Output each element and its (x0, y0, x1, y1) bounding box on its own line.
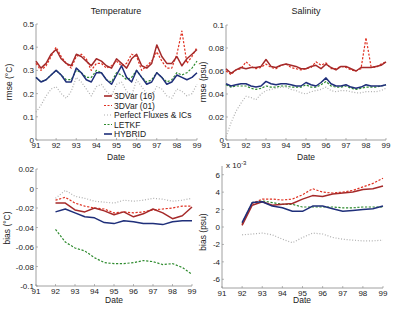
figure: Temperature 91929394959697989900.10.20.3… (0, 0, 401, 310)
x-axis-label: Date (297, 152, 315, 162)
x-tick-label: 94 (282, 141, 291, 150)
x-tick-label: 94 (92, 141, 101, 150)
legend: 3DVar (16) 3DVar (01) Perfect Fluxes & I… (104, 91, 191, 139)
x-tick-label: 98 (358, 289, 367, 298)
x-tick-label: 96 (129, 287, 138, 296)
y-scale-label: x 10-3 (226, 160, 247, 170)
y-tick-label: -0.02 (16, 204, 35, 213)
y-tick-label: 0.06 (208, 67, 224, 76)
series-line (36, 66, 197, 85)
panel-title: Temperature (91, 6, 142, 16)
panel-title: Salinity (291, 6, 321, 16)
y-tick-label: 0.2 (23, 90, 35, 99)
x-tick-label: 98 (362, 141, 371, 150)
svg-text:Perfect Fluxes & ICs: Perfect Fluxes & ICs (114, 110, 191, 120)
series-line (56, 190, 193, 203)
y-tick-label: 0.3 (23, 66, 35, 75)
series-line (242, 233, 383, 243)
y-tick-label: 0 (220, 136, 225, 145)
x-axis-label: Date (107, 152, 125, 162)
y-tick-label: 4 (216, 188, 221, 197)
panel-temperature-rmse: Temperature 91929394959697989900.10.20.3… (4, 6, 202, 162)
series-line (226, 87, 386, 137)
svg-text:3DVar (01): 3DVar (01) (114, 101, 155, 111)
legend-item-hybrid: HYBRID (104, 129, 146, 139)
x-tick-label: 99 (188, 287, 197, 296)
y-tick-label: 6 (216, 171, 221, 180)
x-tick-label: 92 (51, 287, 60, 296)
plot-area: 91929394959697989900.020.040.060.080.1 (208, 21, 391, 150)
series-line (242, 201, 383, 224)
x-tick-label: 97 (149, 287, 158, 296)
series-line (226, 78, 386, 88)
panel-salinity-rmse: Salinity 91929394959697989900.020.040.06… (198, 6, 391, 162)
y-tick-label: -0.1 (20, 282, 34, 291)
series-line (242, 202, 383, 223)
y-tick-label: 0.02 (208, 113, 224, 122)
series-line (56, 203, 193, 219)
y-axis-label: rmse (°C) (4, 64, 14, 101)
series-line (36, 31, 197, 70)
svg-text:HYBRID: HYBRID (114, 129, 146, 139)
x-axis-label: Date (105, 295, 123, 305)
plot-area: 91929394959697989900.10.20.30.40.5 (23, 20, 202, 150)
y-axis-label: rmse (psu) (198, 62, 208, 103)
svg-text:3DVar (16): 3DVar (16) (114, 91, 155, 101)
x-tick-label: 96 (322, 141, 331, 150)
y-tick-label: -4 (213, 258, 221, 267)
legend-item-letkf: LETKF (104, 120, 140, 130)
legend-item-perfect-fluxes: Perfect Fluxes & ICs (104, 110, 191, 120)
y-axis-label: bias (°C) (2, 211, 12, 244)
x-tick-label: 93 (258, 289, 267, 298)
x-tick-label: 93 (71, 287, 80, 296)
x-tick-label: 97 (338, 289, 347, 298)
y-tick-label: 0.04 (208, 90, 224, 99)
x-tick-label: 95 (302, 141, 311, 150)
x-tick-label: 96 (318, 289, 327, 298)
y-tick-label: -0.04 (16, 224, 35, 233)
x-tick-label: 95 (112, 141, 121, 150)
y-tick-label: -6 (213, 275, 221, 284)
svg-text:LETKF: LETKF (114, 120, 140, 130)
plot-area: 9192939495969798990.020-0.02-0.04-0.06-0… (16, 165, 197, 296)
y-tick-label: -0.06 (16, 243, 35, 252)
x-tick-label: 98 (172, 141, 181, 150)
x-tick-label: 92 (52, 141, 61, 150)
y-tick-label: 0 (216, 223, 221, 232)
panel-salinity-bias: 9192939495969798996420-2-4-6 x 10-3 Date… (198, 160, 388, 305)
plot-area: 9192939495969798996420-2-4-6 (213, 166, 388, 298)
y-tick-label: 0 (30, 136, 35, 145)
y-tick-label: 0.5 (23, 20, 35, 29)
y-tick-label: -0.08 (16, 263, 35, 272)
y-tick-label: 0 (30, 185, 35, 194)
legend-item-3dvar01: 3DVar (01) (104, 101, 155, 111)
x-axis-label: Date (293, 295, 311, 305)
series-line (56, 229, 193, 274)
x-tick-label: 97 (152, 141, 161, 150)
x-tick-label: 93 (262, 141, 271, 150)
x-tick-label: 93 (72, 141, 81, 150)
x-tick-label: 97 (342, 141, 351, 150)
y-tick-label: 0.4 (23, 43, 35, 52)
x-tick-label: 94 (278, 289, 287, 298)
y-tick-label: 0.02 (18, 165, 34, 174)
y-tick-label: 0.1 (23, 113, 35, 122)
y-tick-label: 0.08 (208, 44, 224, 53)
y-tick-label: -2 (213, 240, 221, 249)
y-tick-label: 2 (216, 206, 221, 215)
x-tick-label: 92 (242, 141, 251, 150)
x-tick-label: 91 (218, 289, 227, 298)
x-tick-label: 94 (90, 287, 99, 296)
x-tick-label: 98 (168, 287, 177, 296)
x-tick-label: 99 (379, 289, 388, 298)
y-tick-label: 0.1 (213, 21, 225, 30)
x-tick-label: 92 (238, 289, 247, 298)
legend-item-3dvar16: 3DVar (16) (104, 91, 155, 101)
x-tick-label: 96 (132, 141, 141, 150)
y-axis-label: bias (psu) (198, 213, 208, 250)
panel-temperature-bias: 9192939495969798990.020-0.02-0.04-0.06-0… (2, 165, 197, 305)
x-tick-label: 99 (193, 141, 202, 150)
x-tick-label: 99 (382, 141, 391, 150)
